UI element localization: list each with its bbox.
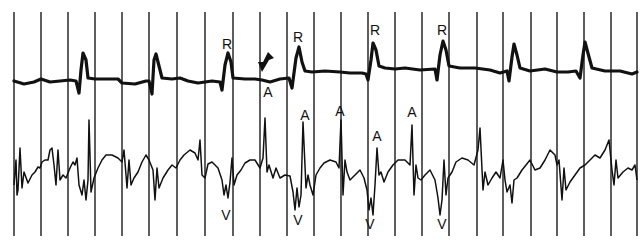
r-wave-label: R xyxy=(437,23,447,37)
r-wave-label: R xyxy=(370,23,380,37)
v-wave-label: V xyxy=(437,217,446,231)
v-wave-label: V xyxy=(365,217,374,231)
ecg-strip xyxy=(0,0,643,250)
upper-ecg-trace xyxy=(14,41,637,94)
r-wave-label: R xyxy=(293,30,303,44)
a-wave-label: A xyxy=(372,129,381,143)
a-wave-label: A xyxy=(300,108,309,122)
v-wave-label: V xyxy=(293,213,302,227)
lower-electrogram-trace xyxy=(14,118,637,215)
a-wave-label: A xyxy=(407,105,416,119)
v-wave-label: V xyxy=(221,208,230,222)
a-wave-label: A xyxy=(263,85,272,99)
a-wave-label: A xyxy=(335,104,344,118)
r-wave-label: R xyxy=(222,37,232,51)
timing-gridlines xyxy=(14,12,637,236)
